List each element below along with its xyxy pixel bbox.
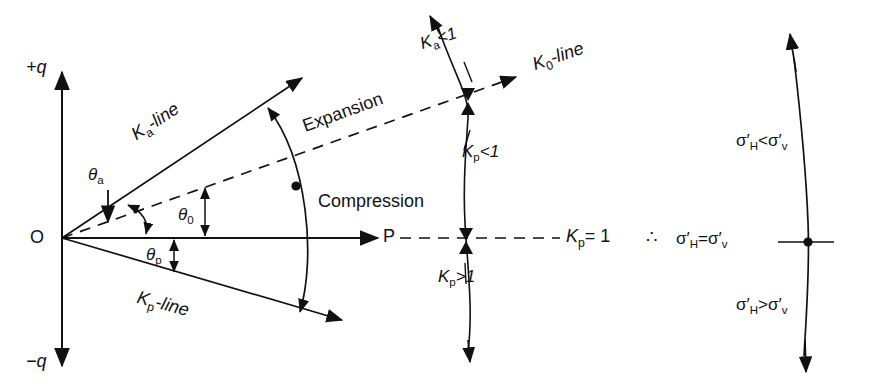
expansion-compression-arc <box>268 108 308 312</box>
sigma-h-equals-sigma-v-label: σ′H=σ′v <box>676 230 727 251</box>
sigma-h-greater-than-sigma-v-label: σ′H>σ′v <box>736 296 787 317</box>
point-p-label: P <box>383 227 395 245</box>
axis-label-positive-q: +q <box>26 58 47 76</box>
kp-less-than-one-label: Kp<1 <box>462 143 499 164</box>
theta-p-label: θp <box>146 246 162 267</box>
compression-label: Compression <box>318 192 424 210</box>
therefore-symbol: ∴ <box>646 228 657 246</box>
p-axis-curve-intersection-arrows <box>459 228 473 254</box>
axis-label-negative-q: −q <box>26 352 47 370</box>
kp-line-ray <box>62 238 342 320</box>
kp-greater-than-one-label: Kp>1 <box>438 268 475 289</box>
k0-line-ray <box>62 77 516 238</box>
arc-k0-intersection-dot <box>291 181 300 190</box>
k-state-curve <box>430 16 470 362</box>
stress-path-diagram <box>0 0 876 389</box>
theta-0-label: θ0 <box>178 206 194 227</box>
kp-equals-one-label: Kp= 1 <box>566 227 610 249</box>
sigma-h-less-than-sigma-v-label: σ′H<σ′v <box>736 132 787 153</box>
theta-a-label: θa <box>88 166 104 187</box>
origin-label: O <box>30 228 44 246</box>
sigma-stress-curve <box>778 34 834 372</box>
